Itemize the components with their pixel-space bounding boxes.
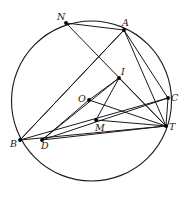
point-A [122, 28, 126, 32]
segment-IM [96, 78, 119, 120]
point-C [166, 96, 170, 100]
segment-IT [119, 78, 166, 126]
point-label-T: T [169, 122, 175, 132]
point-label-N: N [57, 12, 65, 22]
geometry-canvas [0, 0, 181, 197]
point-label-A: A [122, 18, 129, 28]
point-label-I: I [121, 67, 125, 77]
point-label-D: D [41, 141, 49, 151]
geometry-figure: NACTBDIOM [0, 0, 181, 197]
point-B [18, 138, 22, 142]
point-label-O: O [78, 94, 86, 104]
segment-OI [89, 78, 119, 100]
segment-MT [96, 120, 166, 126]
segment-AC [124, 30, 168, 98]
segment-BA [20, 30, 124, 140]
point-label-M: M [95, 123, 105, 133]
point-label-C: C [171, 93, 178, 103]
point-label-B: B [10, 139, 17, 149]
chord-segments-group [20, 23, 168, 140]
point-O [87, 98, 91, 102]
segment-AT [124, 30, 166, 126]
segment-CT [166, 98, 168, 126]
point-T [164, 124, 168, 128]
